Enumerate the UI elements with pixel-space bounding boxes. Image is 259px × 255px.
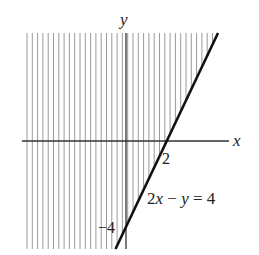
equation-label: 2x − y = 4 [147,189,216,208]
inequality-graph: y x 2 −4 2x − y = 4 [0,0,259,255]
y-intercept-label: −4 [98,219,115,236]
x-intercept-label: 2 [162,150,170,167]
y-axis-label: y [118,10,128,29]
x-axis-label: x [232,131,241,150]
